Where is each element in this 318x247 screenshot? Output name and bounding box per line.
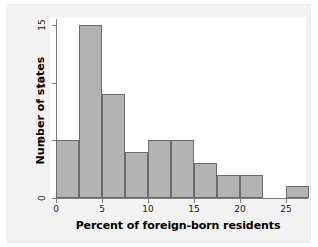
x-tick-label-5: 5 xyxy=(93,204,111,214)
histogram-bar xyxy=(148,140,171,198)
histogram-bar xyxy=(102,94,125,198)
histogram-bar xyxy=(79,25,102,198)
histogram-figure: 0 5 10 15 0 5 10 15 20 25 Percent of xyxy=(0,0,318,247)
histogram-bar xyxy=(217,175,240,198)
y-axis-title: Number of states xyxy=(34,31,47,191)
plot-bars-area xyxy=(56,18,308,198)
y-tick-label-0: 0 xyxy=(37,190,47,206)
x-tick-label-15: 15 xyxy=(185,204,203,214)
x-tick-label-25: 25 xyxy=(277,204,295,214)
x-tick-mark-0 xyxy=(56,199,57,203)
x-tick-label-0: 0 xyxy=(47,204,65,214)
x-tick-mark-10 xyxy=(148,199,149,203)
x-tick-mark-20 xyxy=(240,199,241,203)
x-tick-mark-25 xyxy=(286,199,287,203)
figure-frame: 0 5 10 15 0 5 10 15 20 25 Percent of xyxy=(7,4,311,243)
histogram-bar xyxy=(125,152,148,198)
histogram-bar xyxy=(286,186,309,198)
x-tick-mark-5 xyxy=(102,199,103,203)
x-tick-label-10: 10 xyxy=(139,204,157,214)
histogram-bar xyxy=(194,163,217,198)
histogram-bar xyxy=(171,140,194,198)
x-tick-label-20: 20 xyxy=(231,204,249,214)
histogram-bar xyxy=(240,175,263,198)
x-axis-line xyxy=(56,198,308,199)
histogram-bar xyxy=(56,140,79,198)
x-tick-mark-15 xyxy=(194,199,195,203)
x-axis-title: Percent of foreign-born residents xyxy=(50,219,306,232)
